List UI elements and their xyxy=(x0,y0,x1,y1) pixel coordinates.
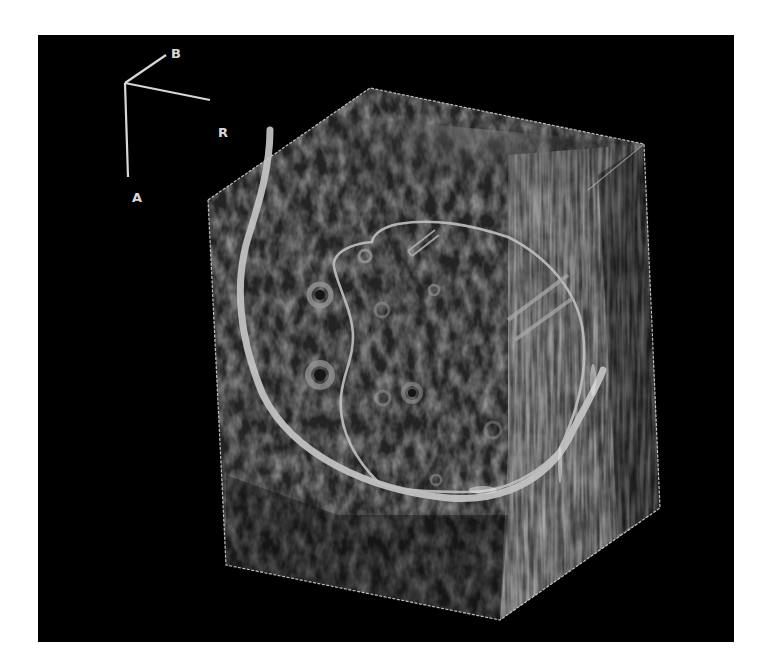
axis-r-line xyxy=(125,83,210,100)
volume-faces xyxy=(208,88,660,620)
volume-rendering xyxy=(38,35,734,642)
volume-render-viewport[interactable]: B R A xyxy=(38,35,734,642)
axis-a-line xyxy=(125,83,128,177)
axis-label-a: A xyxy=(132,191,142,204)
axis-b-line xyxy=(125,55,166,83)
axis-label-b: B xyxy=(171,47,181,60)
axis-label-r: R xyxy=(218,126,228,139)
orientation-axes xyxy=(125,55,210,177)
